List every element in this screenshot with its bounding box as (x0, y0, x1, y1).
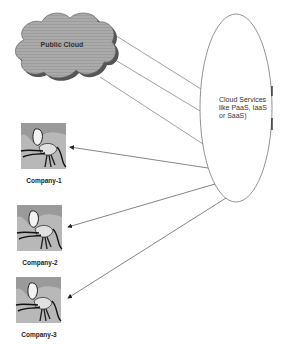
service-arrows (68, 147, 226, 298)
company-2: Company-2 (10, 254, 70, 266)
company-1-icon (21, 123, 66, 169)
cloud-services-label: Cloud Services like PaaS, IaaS or SaaS) (219, 96, 269, 120)
company-3-label: Company-3 (9, 331, 69, 338)
company-3: Company-3 (9, 326, 69, 338)
company-2-icon (17, 205, 62, 251)
company-3-icon (16, 277, 61, 323)
company-1-label: Company-1 (14, 177, 74, 184)
company-2-label: Company-2 (10, 259, 70, 266)
public-cloud-label: Public Cloud (22, 41, 102, 48)
company-1: Company-1 (14, 172, 74, 184)
